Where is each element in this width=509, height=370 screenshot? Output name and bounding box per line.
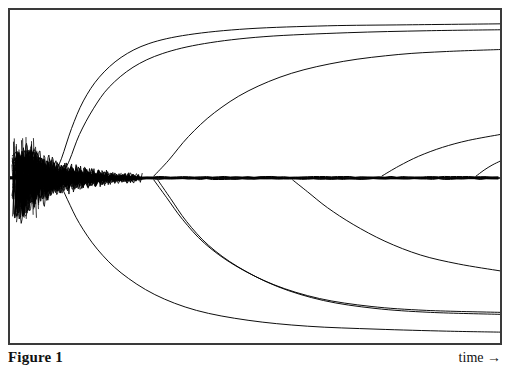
figure-container: Figure 1 time → bbox=[0, 0, 509, 370]
x-axis-label: time → bbox=[459, 350, 501, 366]
plot-frame bbox=[8, 8, 502, 345]
caption-row: Figure 1 time → bbox=[0, 347, 509, 370]
figure-caption-label: Figure 1 bbox=[8, 349, 63, 366]
trajectory-plot-canvas bbox=[10, 10, 500, 343]
